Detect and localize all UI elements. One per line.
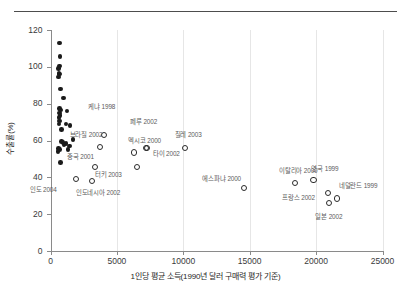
data-point-label: 인도네시아 2002 [76, 189, 121, 196]
data-point-label: 멕시코 2000 [128, 137, 161, 144]
data-point-label: 브라질 2002 [70, 131, 103, 138]
x-tick-label: 10000 [160, 257, 206, 266]
y-tick-label: 100 [19, 62, 43, 71]
y-tick-label: 80 [19, 99, 43, 108]
data-point-label: 일본 2002 [315, 213, 342, 220]
data-point-label: 영국 1999 [311, 165, 338, 172]
x-axis-title: 1인당 평균 소득(1990년 달러 구매력 평가 기준) [0, 272, 411, 282]
data-point [334, 195, 340, 201]
data-point-label: 타이 2002 [153, 150, 180, 157]
data-point [92, 164, 98, 170]
y-tick-label: 0 [19, 247, 43, 256]
x-axis-tick [383, 251, 384, 255]
data-point [325, 190, 331, 196]
x-tick-label: 15000 [227, 257, 273, 266]
data-point-label: 프랑스 2002 [282, 194, 315, 201]
x-gridline [183, 30, 184, 251]
data-point-label: 칠레 2003 [175, 131, 202, 138]
y-tick-label: 60 [19, 136, 43, 145]
y-tick-label: 40 [19, 173, 43, 182]
data-point-label: 네덜란드 1999 [339, 182, 378, 189]
data-point [58, 87, 63, 92]
data-point [144, 145, 150, 151]
data-point [241, 185, 247, 191]
data-point [97, 144, 103, 150]
data-point [182, 145, 188, 151]
x-tick-label: 20000 [293, 257, 339, 266]
y-axis-title: 수출률(%) [6, 109, 15, 169]
data-point [134, 164, 140, 170]
data-point [56, 75, 61, 80]
y-tick-label: 120 [19, 26, 43, 35]
data-point [61, 96, 66, 101]
y-tick-label: 20 [19, 210, 43, 219]
data-point [292, 180, 298, 186]
data-point [57, 122, 62, 127]
y-axis-line [51, 30, 52, 251]
x-gridline [250, 30, 251, 251]
data-point-label: 중국 2001 [67, 153, 94, 160]
data-point [58, 54, 63, 59]
x-tick-label: 0 [28, 257, 74, 266]
x-axis-line [51, 251, 383, 252]
x-tick-label: 25000 [360, 257, 406, 266]
data-point [326, 200, 332, 206]
x-gridline [117, 30, 118, 251]
data-point [66, 147, 71, 152]
data-point [56, 149, 61, 154]
data-point [73, 176, 79, 182]
data-point [89, 178, 95, 184]
data-point-label: 터키 2003 [95, 171, 122, 178]
x-tick-label: 5000 [94, 257, 140, 266]
data-point [131, 149, 137, 155]
data-point-label: 페루 2002 [130, 118, 157, 125]
scatter-chart-figure: 0500010000150002000025000020406080100120… [0, 0, 411, 295]
data-point [57, 41, 62, 46]
data-point [310, 177, 316, 183]
data-point-label: 에스파냐 2000 [202, 175, 241, 182]
data-point-label: 케냐 1998 [88, 103, 115, 110]
data-point [65, 109, 70, 114]
data-point-label: 인도 2004 [30, 186, 57, 193]
data-point [68, 123, 73, 128]
x-gridline [383, 30, 384, 251]
data-point [58, 160, 63, 165]
data-point [59, 127, 64, 132]
